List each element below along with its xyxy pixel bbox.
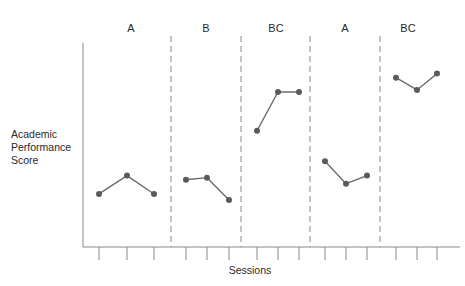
data-point-13 [393,75,399,81]
y-axis-label-line-3: Score [11,154,71,167]
data-point-10 [322,158,328,164]
data-point-9 [296,89,302,95]
data-point-4 [183,177,189,183]
data-point-7 [254,128,260,134]
data-point-2 [124,173,130,179]
phase-label-2: B [202,22,209,34]
single-case-design-chart: Academic Performance Score A B BC A BC S… [0,0,465,286]
data-point-8 [275,89,281,95]
x-axis-label: Sessions [229,264,272,276]
data-point-3 [151,191,157,197]
data-point-5 [204,175,210,181]
phase-label-4: A [341,22,348,34]
phase-line-4 [325,161,367,183]
data-point-15 [434,71,440,77]
data-point-14 [414,87,420,93]
y-axis-label-line-1: Academic [11,128,71,141]
data-point-11 [343,181,349,187]
data-point-1 [96,191,102,197]
phase-line-3 [257,92,299,131]
y-axis-label: Academic Performance Score [11,128,71,167]
phase-label-5: BC [400,22,415,34]
phase-line-2 [186,178,229,200]
phase-label-3: BC [268,22,283,34]
data-point-12 [364,173,370,179]
data-point-6 [226,197,232,203]
phase-label-1: A [127,22,134,34]
y-axis-label-line-2: Performance [11,141,71,154]
